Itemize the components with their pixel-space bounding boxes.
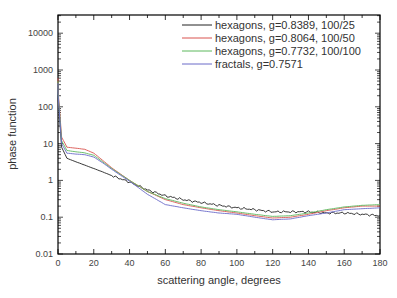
x-tick-label: 100	[229, 258, 244, 268]
y-tick-label: 0.1	[40, 212, 53, 222]
legend-item-label: hexagons, g=0.7732, 100/100	[215, 45, 361, 57]
x-tick-label: 160	[337, 258, 352, 268]
x-tick-label: 60	[160, 258, 170, 268]
y-tick-label: 0.01	[35, 249, 53, 259]
y-tick-label: 1000	[33, 65, 53, 75]
legend-item-label: hexagons, g=0.8389, 100/25	[215, 19, 355, 31]
x-tick-label: 80	[196, 258, 206, 268]
y-tick-label: 100	[38, 102, 53, 112]
y-axis-label: phase function	[6, 98, 18, 170]
phase-function-chart: 020406080100120140160180 100001000100101…	[0, 0, 397, 298]
y-tick-label: 10	[43, 139, 53, 149]
y-tick-label: 10000	[28, 28, 53, 38]
x-tick-label: 40	[125, 258, 135, 268]
series-layer	[58, 78, 380, 220]
legend: hexagons, g=0.8389, 100/25hexagons, g=0.…	[182, 19, 361, 70]
series-line-2	[58, 81, 380, 216]
x-axis-label: scattering angle, degrees	[157, 274, 281, 286]
legend-item-label: hexagons, g=0.8064, 100/50	[215, 32, 355, 44]
x-tick-label: 20	[89, 258, 99, 268]
x-tick-label: 0	[55, 258, 60, 268]
legend-item-label: fractals, g=0.7571	[215, 58, 303, 70]
x-tick-label: 120	[265, 258, 280, 268]
y-tick-label: 1	[48, 175, 53, 185]
series-line-3	[58, 83, 380, 220]
series-line-0	[58, 85, 380, 217]
x-tick-label: 180	[372, 258, 387, 268]
x-tick-label: 140	[301, 258, 316, 268]
series-line-1	[58, 78, 380, 218]
